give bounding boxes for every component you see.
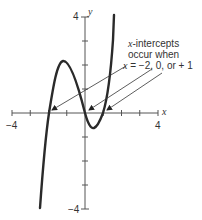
x-max-label: 4 [155,121,161,131]
arrow-to-x-neg2 [52,66,126,110]
annotation-line-2: occur when [128,49,193,60]
annotation-line-3: x = −2, 0, or + 1 [123,60,193,71]
cubic-curve [40,15,114,208]
plot-area [0,0,202,220]
annotation-line-1: x-intercepts [128,38,193,49]
x-axis-label: x [162,107,166,117]
y-axis-label: y [88,7,92,17]
y-min-label: −4 [68,205,79,215]
x-min-label: −4 [6,121,17,131]
x-intercepts-annotation: x-intercepts occur when x = −2, 0, or + … [128,38,193,71]
y-max-label: 4 [73,12,79,22]
arrow-to-x-1 [107,73,162,110]
arrow-to-x-0 [89,69,152,110]
